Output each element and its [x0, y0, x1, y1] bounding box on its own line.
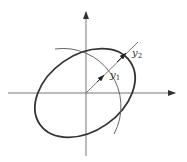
- diagram-canvas: y1 y2: [0, 0, 187, 162]
- label-y2: y2: [132, 48, 142, 60]
- arrow-y1: [97, 75, 104, 82]
- diagram-svg: [0, 0, 187, 162]
- label-y1: y1: [110, 70, 120, 82]
